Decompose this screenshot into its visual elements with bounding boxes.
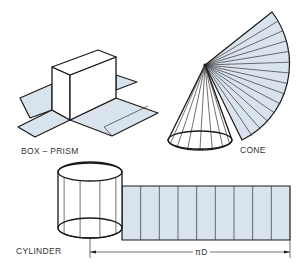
- label-box-prism: BOX – PRISM: [21, 146, 79, 156]
- box-prism-drawing: [18, 50, 158, 137]
- cone-drawing: [168, 12, 290, 150]
- label-cone: CONE: [240, 145, 266, 155]
- label-dimension-pid: πD: [193, 247, 210, 257]
- box-front-face: [52, 67, 70, 120]
- cone-apex: [203, 63, 206, 66]
- box-flap-back: [116, 75, 137, 90]
- cylinder-body: [58, 162, 122, 238]
- dimension-line-pid: [90, 238, 290, 258]
- cylinder-drawing: [58, 162, 290, 258]
- developments-diagram: [0, 0, 305, 273]
- label-cylinder: CYLINDER: [16, 246, 61, 256]
- cylinder-development: [122, 186, 290, 240]
